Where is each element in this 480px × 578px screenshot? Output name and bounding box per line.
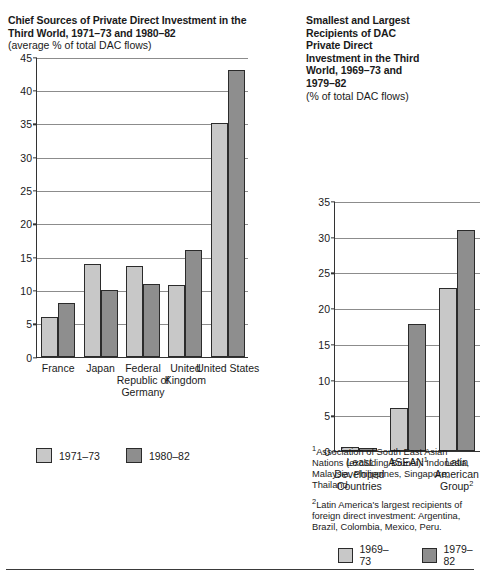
right-legend: 1969–731979–82 <box>338 543 480 567</box>
bar <box>185 250 202 357</box>
left-plot-area: 051015202530354045 FranceJapanFederal Re… <box>8 58 264 358</box>
right-chart-subtitle: (% of total DAC flows) <box>306 90 428 103</box>
left-legend: 1971–731980–82 <box>36 448 190 463</box>
y-tick-label-30: 30 <box>20 152 32 164</box>
category-label: United States <box>191 357 265 374</box>
bar-group <box>37 58 79 357</box>
bar <box>439 288 457 451</box>
y-tick-label-20: 20 <box>20 218 32 230</box>
left-bars <box>37 58 248 357</box>
bar <box>84 264 101 357</box>
legend-item: 1979–82 <box>422 543 480 567</box>
bar <box>457 230 475 451</box>
left-chart-title-block: Chief Sources of Private Direct Investme… <box>8 14 260 52</box>
right-chart-title-block: Smallest and Largest Recipients of DAC P… <box>306 14 428 102</box>
y-tick-label-35: 35 <box>318 196 330 208</box>
legend-label: 1969–73 <box>360 543 397 567</box>
legend-label: 1971–73 <box>59 450 100 462</box>
right-chart-panel: Smallest and Largest Recipients of DAC P… <box>306 14 478 102</box>
legend-item: 1980–82 <box>126 448 190 463</box>
bar <box>168 285 185 356</box>
bar <box>390 408 408 451</box>
legend-item: 1971–73 <box>36 448 100 463</box>
legend-swatch <box>422 548 437 563</box>
bar <box>228 70 245 357</box>
y-tick-label-15: 15 <box>20 252 32 264</box>
bar-group <box>79 58 121 357</box>
bar <box>41 317 58 357</box>
legend-swatch <box>126 448 142 463</box>
bar-group <box>164 58 206 357</box>
y-tick-label-40: 40 <box>20 85 32 97</box>
left-chart-title: Chief Sources of Private Direct Investme… <box>8 14 260 39</box>
bar-group <box>335 202 384 451</box>
right-plot: 05101520253035 Least Developed Countries… <box>334 202 480 452</box>
right-footnotes: 1Association of South East Asian Nations… <box>312 447 476 542</box>
right-plot-area: 05101520253035 Least Developed Countries… <box>306 196 480 452</box>
legend-item: 1969–73 <box>338 543 396 567</box>
bar <box>211 123 228 356</box>
y-tick-label-35: 35 <box>20 118 32 130</box>
bar-group <box>384 202 433 451</box>
y-tick-label-45: 45 <box>20 52 32 64</box>
footnote-2: 2Latin America's largest recipients of f… <box>312 500 476 533</box>
left-plot: 051015202530354045 FranceJapanFederal Re… <box>36 58 248 358</box>
bar <box>58 303 75 356</box>
y-tick-label-15: 15 <box>318 339 330 351</box>
legend-label: 1980–82 <box>149 450 190 462</box>
right-bars <box>335 202 480 451</box>
y-tick-label-25: 25 <box>318 267 330 279</box>
legend-label: 1979–82 <box>444 543 480 567</box>
bottom-divider <box>6 569 474 570</box>
bar-group <box>207 58 249 357</box>
y-tick-label-10: 10 <box>20 285 32 297</box>
y-tick-label-30: 30 <box>318 232 330 244</box>
bar <box>126 266 143 357</box>
y-tick-label-10: 10 <box>318 375 330 387</box>
y-tick-label-5: 5 <box>324 410 330 422</box>
legend-swatch <box>36 448 52 463</box>
y-tick-label-20: 20 <box>318 303 330 315</box>
right-chart-title: Smallest and Largest Recipients of DAC P… <box>306 14 428 90</box>
bar <box>143 284 160 357</box>
legend-swatch <box>338 548 353 563</box>
y-tick-label-25: 25 <box>20 185 32 197</box>
footnote-1: 1Association of South East Asian Nations… <box>312 447 476 491</box>
bar <box>101 290 118 357</box>
footnote-2-text: Latin America's largest recipients of fo… <box>312 500 462 532</box>
figure-page: Chief Sources of Private Direct Investme… <box>0 0 480 578</box>
bar <box>408 324 426 451</box>
bar-group <box>432 202 480 451</box>
left-chart-panel: Chief Sources of Private Direct Investme… <box>8 14 264 358</box>
bar-group <box>122 58 164 357</box>
footnote-1-text: Association of South East Asian Nations … <box>312 447 469 490</box>
left-chart-subtitle: (average % of total DAC flows) <box>8 39 260 52</box>
y-tick-label-5: 5 <box>26 318 32 330</box>
